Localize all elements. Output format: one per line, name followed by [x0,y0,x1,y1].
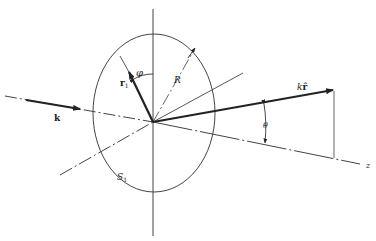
oblique-axis [60,122,153,175]
aperture-ellipse [93,34,215,192]
scattered-vector [153,90,333,122]
position-vector-r1 [129,72,153,122]
z-axis [153,122,360,164]
r1-extension [120,56,129,72]
label-theta: θ [263,121,268,130]
label-k-incident: k [54,113,61,123]
label-phi: φ [136,67,143,78]
label-z-axis: z [365,161,371,170]
incident-vector-k [26,100,80,109]
label-S1: S1 [117,172,127,183]
scattering-diagram: k r1 φ R kr̂ θ S1 z [0,0,376,241]
label-R: R [173,75,181,85]
label-k-rhat: kr̂ [297,82,308,92]
label-r1: r1 [120,78,129,89]
